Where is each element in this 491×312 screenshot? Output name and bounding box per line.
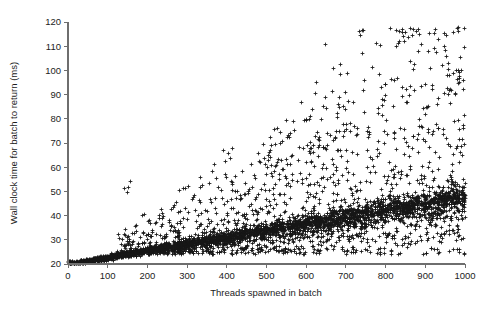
x-tick-label: 700 bbox=[338, 270, 354, 281]
x-tick-label: 500 bbox=[259, 270, 275, 281]
x-tick-label: 300 bbox=[179, 270, 195, 281]
x-tick-label: 100 bbox=[100, 270, 116, 281]
y-tick-label: 120 bbox=[45, 16, 61, 27]
x-tick-label: 200 bbox=[139, 270, 155, 281]
y-tick-label: 90 bbox=[50, 89, 61, 100]
x-axis-ticks: 01002003004005006007008009001000 bbox=[65, 264, 475, 281]
y-tick-label: 100 bbox=[45, 65, 61, 76]
x-tick-label: 1000 bbox=[454, 270, 475, 281]
x-tick-label: 0 bbox=[65, 270, 70, 281]
x-tick-label: 600 bbox=[298, 270, 314, 281]
data-point-markers bbox=[67, 26, 468, 266]
x-tick-label: 800 bbox=[378, 270, 394, 281]
y-tick-label: 70 bbox=[50, 137, 61, 148]
y-tick-label: 110 bbox=[46, 41, 61, 52]
y-tick-label: 50 bbox=[50, 186, 61, 197]
y-tick-label: 20 bbox=[50, 258, 61, 269]
scatter-plot-canvas: 2030405060708090100110120 01002003004005… bbox=[0, 0, 491, 312]
y-axis-title: Wall clock time for batch to return (ms) bbox=[8, 62, 19, 224]
y-tick-label: 30 bbox=[50, 234, 61, 245]
y-tick-label: 80 bbox=[50, 113, 61, 124]
x-tick-label: 900 bbox=[417, 270, 433, 281]
y-axis-ticks: 2030405060708090100110120 bbox=[45, 16, 68, 269]
y-tick-label: 60 bbox=[50, 162, 61, 173]
x-axis-title: Threads spawned in batch bbox=[210, 287, 321, 298]
data-point-plus-marker-group bbox=[67, 26, 468, 266]
x-tick-label: 400 bbox=[219, 270, 235, 281]
y-tick-label: 40 bbox=[50, 210, 61, 221]
scatter-plot-figure: 2030405060708090100110120 01002003004005… bbox=[0, 0, 491, 312]
